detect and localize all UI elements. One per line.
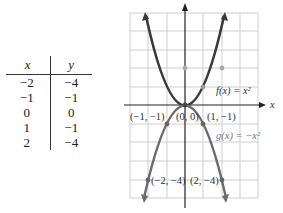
g-function-label: g(x) = −x² bbox=[216, 130, 261, 142]
parabola-graph: x f(x) = x² g(x) = −x² (−1, −1) (0, 0) (… bbox=[0, 0, 283, 213]
point-label-neg1-neg1: (−1, −1) bbox=[130, 111, 165, 123]
point-label-neg2-neg4: (−2, −4) bbox=[151, 175, 186, 187]
point-label-2-neg4: (2, −4) bbox=[190, 175, 219, 187]
f-function-label: f(x) = x² bbox=[216, 85, 252, 97]
y-axis-arrow-icon bbox=[182, 3, 188, 11]
x-axis-label: x bbox=[269, 99, 275, 110]
point-label-origin: (0, 0) bbox=[176, 111, 199, 123]
point-label-1-neg1: (1, −1) bbox=[207, 111, 236, 123]
x-axis-arrow-icon bbox=[259, 102, 266, 108]
